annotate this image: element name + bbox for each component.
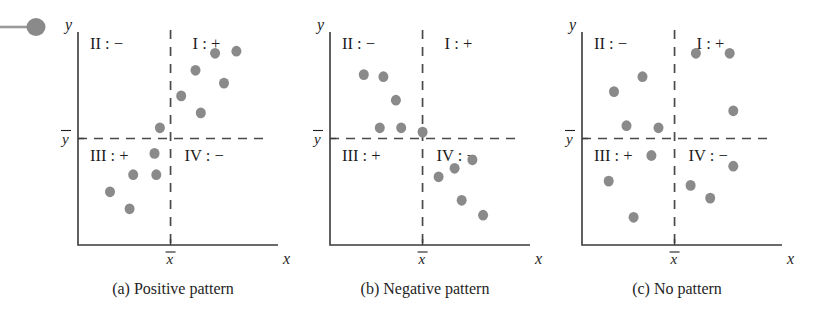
- data-point: [391, 95, 401, 106]
- data-point: [622, 120, 632, 131]
- mean-y-label: y: [564, 131, 573, 147]
- quadrant-label-IV: IV : −: [185, 146, 224, 165]
- y-axis-label: y: [63, 16, 73, 34]
- data-point: [725, 48, 735, 59]
- data-point: [450, 163, 460, 174]
- data-point: [609, 86, 619, 97]
- data-point: [196, 108, 206, 119]
- data-point: [691, 48, 701, 59]
- data-point: [375, 122, 385, 133]
- data-point: [457, 195, 467, 206]
- x-axis-label: x: [534, 250, 542, 267]
- data-point: [705, 193, 715, 204]
- data-point: [434, 171, 444, 182]
- data-point: [467, 154, 477, 165]
- data-point: [686, 180, 696, 191]
- panel-caption: (a) Positive pattern: [112, 280, 234, 298]
- data-point: [396, 122, 406, 133]
- data-point: [359, 69, 369, 80]
- x-axis-label: x: [786, 250, 794, 267]
- quadrant-label-II: II : −: [594, 34, 627, 53]
- mean-x-label: x: [670, 251, 678, 267]
- data-point: [629, 212, 639, 223]
- mean-x-label: x: [166, 251, 174, 267]
- quadrant-label-III: III : +: [594, 146, 633, 165]
- scatter-panel: II : −I : +III : +IV : −yxxy: [564, 16, 794, 267]
- quadrant-label-III: III : +: [90, 146, 129, 165]
- quadrant-label-I: I : +: [697, 34, 725, 53]
- quadrant-label-IV: IV : −: [689, 146, 728, 165]
- data-point: [151, 169, 161, 180]
- scatterplot-figure: II : −I : +III : +IV : −yxxy(a) Positive…: [0, 0, 815, 314]
- panel-caption: (c) No pattern: [632, 280, 722, 298]
- mean-x-label: x: [418, 251, 426, 267]
- quadrant-label-I: I : +: [445, 34, 473, 53]
- quadrant-label-II: II : −: [90, 34, 123, 53]
- data-point: [128, 169, 138, 180]
- data-point: [219, 78, 229, 89]
- data-point-group: [604, 48, 739, 223]
- data-point: [728, 161, 738, 172]
- quadrant-label-II: II : −: [342, 34, 375, 53]
- data-point: [728, 105, 738, 116]
- data-point: [638, 71, 648, 82]
- scatter-panel: II : −I : +III : +IV : −yxxy: [312, 16, 542, 267]
- scatter-panel: II : −I : +III : +IV : −yxxy: [60, 16, 290, 267]
- data-point: [231, 46, 241, 57]
- data-point: [155, 122, 165, 133]
- data-point: [191, 65, 201, 76]
- y-axis-label: y: [315, 16, 325, 34]
- mean-y-label: y: [312, 131, 321, 147]
- data-point: [378, 71, 388, 82]
- data-point: [604, 176, 614, 187]
- mean-y-label: y: [60, 131, 69, 147]
- data-point: [210, 48, 220, 59]
- data-point: [176, 91, 186, 102]
- y-axis-label: y: [567, 16, 577, 34]
- data-point: [418, 127, 428, 138]
- x-axis-label: x: [282, 250, 290, 267]
- data-point: [654, 122, 664, 133]
- data-point-group: [105, 46, 241, 214]
- data-point: [646, 150, 656, 161]
- quadrant-label-III: III : +: [342, 146, 381, 165]
- data-point: [105, 186, 115, 197]
- data-point: [478, 210, 488, 221]
- data-point: [150, 148, 160, 159]
- corner-bullet-pin-icon: [0, 18, 46, 36]
- data-point: [125, 203, 135, 214]
- panel-caption: (b) Negative pattern: [361, 280, 490, 298]
